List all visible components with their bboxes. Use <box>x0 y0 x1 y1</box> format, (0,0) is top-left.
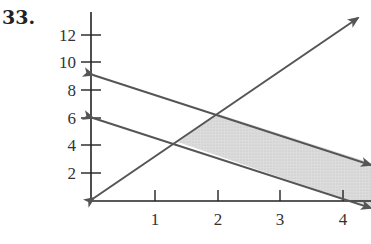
svg-text:6: 6 <box>68 109 77 128</box>
x-ticks <box>155 190 343 201</box>
svg-text:10: 10 <box>59 53 76 72</box>
chart: 12 10 8 6 4 2 1 2 3 4 <box>0 0 371 244</box>
svg-text:8: 8 <box>68 81 77 100</box>
shaded-region <box>178 114 371 206</box>
svg-text:1: 1 <box>151 210 160 229</box>
y-tick-labels: 12 10 8 6 4 2 <box>59 26 77 183</box>
svg-text:3: 3 <box>276 210 285 229</box>
svg-text:2: 2 <box>68 164 77 183</box>
svg-text:12: 12 <box>59 26 76 45</box>
x-tick-labels: 1 2 3 4 <box>151 210 348 229</box>
svg-text:4: 4 <box>68 136 77 155</box>
svg-text:2: 2 <box>214 210 223 229</box>
svg-text:4: 4 <box>339 210 348 229</box>
